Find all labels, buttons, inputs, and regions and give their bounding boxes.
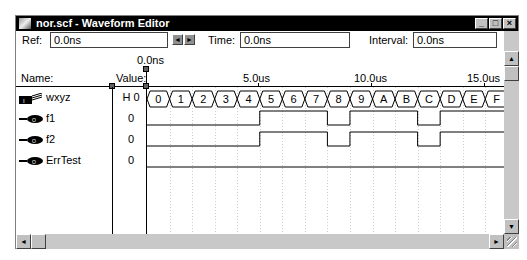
bus-value-label: 6 <box>291 93 297 105</box>
signal-name: ErrTest <box>46 154 81 166</box>
bus-value-label: 9 <box>358 93 364 105</box>
output-pin-icon: O <box>19 135 43 145</box>
prev-transition-button[interactable]: ◄ <box>172 34 183 45</box>
signal-value: 0 <box>114 133 148 145</box>
signal-row-f2[interactable]: O f2 0 <box>16 130 146 151</box>
bus-value-label: 4 <box>245 93 251 105</box>
toolbar: Ref: 0.0ns ◄ ► Time: 0.0ns Interval: 0.0… <box>16 31 518 51</box>
next-transition-button[interactable]: ► <box>184 34 195 45</box>
app-icon <box>19 18 31 29</box>
signal-value: 0 <box>114 154 148 166</box>
output-pin-icon: O <box>19 156 43 166</box>
value-column-header: Value: <box>116 72 146 84</box>
bus-value-label: C <box>425 93 433 105</box>
output-pin-icon: O <box>19 114 43 124</box>
interval-label: Interval: <box>369 34 408 46</box>
bus-value-label: A <box>380 93 388 105</box>
bus-value-label: B <box>403 93 410 105</box>
scroll-down-button[interactable]: ▼ <box>504 219 519 234</box>
horizontal-scroll-thumb[interactable] <box>31 234 46 249</box>
ref-label: Ref: <box>22 34 42 46</box>
bus-input-icon: I <box>19 93 43 104</box>
scroll-left-button[interactable]: ◄ <box>16 234 31 249</box>
title-bar[interactable]: nor.scf - Waveform Editor _ □ × <box>16 16 518 31</box>
bus-value-label: 5 <box>268 93 274 105</box>
signal-value: 0 <box>114 112 148 124</box>
bus-value-label: 8 <box>336 93 342 105</box>
svg-text:O: O <box>32 138 36 144</box>
time-label: Time: <box>208 34 235 46</box>
bus-value-label: 1 <box>178 93 184 105</box>
signal-name: wxyz <box>46 91 70 103</box>
ruler-tick-5us: 5.0us <box>243 72 270 84</box>
signal-row-errtest[interactable]: O ErrTest 0 <box>16 151 146 172</box>
signal-value: H 0 <box>114 91 148 103</box>
maximize-button[interactable]: □ <box>489 18 502 29</box>
svg-text:O: O <box>32 117 36 123</box>
ref-field[interactable]: 0.0ns <box>50 32 168 48</box>
cursor-time-label: 0.0ns <box>137 54 164 66</box>
horizontal-scrollbar[interactable]: ◄ ► <box>16 234 504 249</box>
waveform-display[interactable]: 0123456789ABCDEF <box>147 87 504 234</box>
signal-row-wxyz[interactable]: I wxyz H 0 <box>16 88 146 109</box>
time-field[interactable]: 0.0ns <box>240 32 350 48</box>
scroll-right-button[interactable]: ► <box>489 234 504 249</box>
signal-name: f2 <box>46 133 55 145</box>
minimize-button[interactable]: _ <box>475 18 488 29</box>
waveform-editor-window: nor.scf - Waveform Editor _ □ × Ref: 0.0… <box>15 15 519 249</box>
bus-value-label: F <box>493 93 500 105</box>
vertical-scroll-thumb[interactable] <box>504 66 519 81</box>
name-column-header: Name: <box>21 72 53 84</box>
bus-value-label: 7 <box>313 93 319 105</box>
vertical-scrollbar[interactable]: ▲ ▼ <box>504 31 519 234</box>
bus-value-label: D <box>447 93 455 105</box>
window-title: nor.scf - Waveform Editor <box>36 17 169 29</box>
bus-value-label: E <box>470 93 477 105</box>
bus-value-label: 0 <box>155 93 161 105</box>
svg-text:O: O <box>32 159 36 165</box>
close-button[interactable]: × <box>503 18 516 29</box>
scroll-up-button[interactable]: ▲ <box>504 51 519 66</box>
waveform-pane: 0.0ns Name: Value: 5.0us 10.0us 15.0us I… <box>16 51 504 234</box>
interval-field[interactable]: 0.0ns <box>413 32 497 48</box>
bus-value-label: 2 <box>200 93 206 105</box>
resize-grip[interactable] <box>504 234 519 249</box>
bus-value-label: 3 <box>223 93 229 105</box>
signal-row-f1[interactable]: O f1 0 <box>16 109 146 130</box>
signal-name: f1 <box>46 112 55 124</box>
